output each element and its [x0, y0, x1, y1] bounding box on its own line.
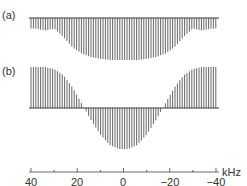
spectra-figure: (a) (b) kHz 40 20 0 −20 −40: [0, 0, 247, 186]
tick-label-0: 0: [120, 176, 126, 186]
tick-label-neg20: −20: [161, 176, 180, 186]
tick-label-neg40: −40: [207, 176, 226, 186]
panel-b-label: (b): [2, 65, 15, 77]
panel-a-label: (a): [2, 9, 15, 21]
panel-a-spectrum: [29, 18, 219, 60]
frequency-axis: [29, 168, 219, 172]
tick-label-20: 20: [71, 176, 83, 186]
tick-label-40: 40: [25, 176, 37, 186]
panel-b-spectrum: [29, 67, 219, 149]
